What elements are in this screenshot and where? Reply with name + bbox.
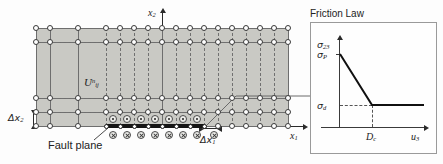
displacement-field-label: Unij [84,76,99,88]
circled-cross-icon [210,131,218,139]
mesh-node [271,123,277,129]
mesh-node [201,25,207,31]
friction-law-chart: σ23 u3 σP σd Dc [310,22,437,154]
fault-node [104,124,109,129]
slip-weakening-curve [311,23,438,155]
mesh-node [33,25,39,31]
circled-dot-icon [109,115,117,123]
mesh-node [173,109,179,115]
mesh-node [47,123,53,129]
mesh-node [33,39,39,45]
circled-dot-icon [123,115,131,123]
mesh-node [159,25,165,31]
mesh-node [117,109,123,115]
circled-cross-icon [109,131,117,139]
mesh-node [103,25,109,31]
mesh-node [159,39,165,45]
fault-node [146,124,151,129]
circled-cross-icon [123,131,131,139]
mesh-node [187,95,193,101]
mesh-node [201,109,207,115]
fault-node [202,124,207,129]
mesh-node [257,25,263,31]
mesh-node [103,95,109,101]
mesh-node [33,109,39,115]
mesh-node [285,123,291,129]
mesh-node [47,25,53,31]
mesh-node [33,95,39,101]
mesh-node [47,109,53,115]
circled-dot-icon [179,115,187,123]
mesh-node [229,123,235,129]
mesh-node [215,39,221,45]
mesh-node [75,109,81,115]
mesh-node [229,109,235,115]
mesh-node [229,39,235,45]
mesh-node [103,109,109,115]
mesh-node [187,25,193,31]
mesh-node [285,95,291,101]
mesh-node [117,95,123,101]
mesh-node [215,95,221,101]
mesh-node [257,123,263,129]
mesh-node [229,95,235,101]
circled-dot-icon [193,115,201,123]
mesh-node [145,95,151,101]
fault-node [174,124,179,129]
mesh-node [33,123,39,129]
mesh-node [257,39,263,45]
mesh-node [131,25,137,31]
mesh-node [201,39,207,45]
mesh-node [173,95,179,101]
mesh-node [75,95,81,101]
mesh-node [117,25,123,31]
mesh-node [229,25,235,31]
mesh-node [257,109,263,115]
circled-dot-icon [137,115,145,123]
fault-node [118,124,123,129]
mesh-node [145,109,151,115]
axis-x2-label: x2 [148,7,156,18]
mesh-node [201,95,207,101]
axis-x1-label: x1 [290,130,298,141]
mesh-node [187,39,193,45]
mesh-node [75,25,81,31]
mesh-node [145,39,151,45]
mesh-node [47,95,53,101]
mesh-node [131,109,137,115]
circled-dot-icon [151,115,159,123]
mesh-node [243,25,249,31]
mesh-node [159,109,165,115]
fault-plane-caption: Fault plane [48,140,102,151]
delta-x2-label: Δx2 [8,112,23,123]
mesh-node [271,95,277,101]
mesh-node [243,95,249,101]
mesh-node [117,39,123,45]
circled-dot-icon [165,115,173,123]
mesh-node [159,95,165,101]
mesh-node [285,39,291,45]
mesh-node [285,109,291,115]
axis-x2-arrow [162,12,163,26]
mesh-node [243,39,249,45]
mesh-node [215,123,221,129]
chart-title: Friction Law [310,8,364,19]
circled-cross-icon [193,131,201,139]
mesh-node [243,123,249,129]
mesh-node [215,109,221,115]
mesh-node [271,25,277,31]
mesh-node [173,39,179,45]
circled-cross-icon [137,131,145,139]
mesh-node [243,109,249,115]
mesh-node [187,109,193,115]
fault-node [132,124,137,129]
circled-cross-icon [179,131,187,139]
circled-cross-icon [165,131,173,139]
mesh-node [131,95,137,101]
finite-difference-fault-model-figure: x2 x1 Δx2 Δx1 Unij Fault plane Friction … [0,0,443,164]
mesh-node [103,39,109,45]
mesh-node [173,25,179,31]
mesh-node [47,39,53,45]
mesh-node [271,109,277,115]
mesh-node [215,25,221,31]
